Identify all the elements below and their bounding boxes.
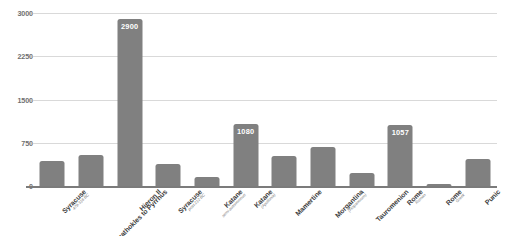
x-tick-label: Katane (Apollonia) [252,188,276,212]
bar-slot [304,13,343,186]
bar[interactable]: 1057 [388,125,413,186]
y-tick-label: 1500 [3,95,33,104]
bar-slot [458,13,497,186]
y-axis: 0 750 1500 2250 3000 [0,0,33,236]
bar[interactable] [78,155,103,186]
bar[interactable] [156,164,181,186]
bar-chart: 0 750 1500 2250 3000 2900 [0,0,507,236]
bar[interactable] [310,147,335,186]
bar-value-label: 1080 [237,127,254,136]
bar-slot [265,13,304,186]
y-tick-label: 750 [3,138,33,147]
x-axis-labels: Syracuse 479-316 BC Agathokles to Pyrrhu… [33,188,497,236]
bar[interactable] [465,159,490,186]
bar[interactable] [272,156,297,186]
bar-slot: 1080 [226,13,265,186]
bar-slot [188,13,227,186]
x-tick-label: Rome Greek [445,188,467,210]
bar[interactable]: 2900 [117,19,142,186]
bar-slot [149,13,188,186]
x-tick-label: Morgantina (Hispanorum) [334,188,368,222]
bar[interactable] [349,173,374,186]
x-tick-label: Katane semi-autonomous [216,188,247,219]
bar-slot [420,13,459,186]
bar[interactable]: 1080 [233,124,258,186]
x-tick-label: Mamertine [294,188,323,217]
bar-slot: 1057 [381,13,420,186]
x-tick-label: Punic [483,188,501,206]
x-label-main: Mamertine [294,188,323,217]
bar-slot [33,13,72,186]
bar-value-label: 2900 [121,22,138,31]
bar-value-label: 1057 [392,128,409,137]
y-tick-label: 2250 [3,52,33,61]
x-tick-label: Syracuse 479-316 BC [61,188,91,218]
x-label-main: Tauromenion [374,188,409,223]
y-tick-label: 3000 [3,9,33,18]
bar-series: 2900 1080 [33,13,497,186]
bar-slot [72,13,111,186]
bar-slot [342,13,381,186]
bar-slot: 2900 [110,13,149,186]
bar[interactable] [194,177,219,186]
bar[interactable] [40,161,65,186]
x-tick-label: Syracuse post-212 BC [177,188,207,218]
x-tick-label: Tauromenion [374,188,409,223]
x-tick-label: Rome Roman [406,188,428,210]
x-label-main: Punic [483,188,501,206]
